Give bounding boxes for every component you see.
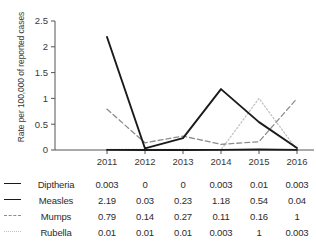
- data-cell: 0.003: [202, 224, 240, 240]
- legend-swatch-diptheria: [0, 176, 24, 192]
- data-cell: 0.16: [240, 208, 278, 224]
- data-cell: 2.19: [88, 192, 126, 208]
- line-style-icon: [4, 183, 21, 184]
- x-tick-label: 2012: [134, 156, 155, 167]
- table-row: Rubella0.010.010.010.00310.003: [0, 224, 316, 240]
- data-cell: 0: [164, 176, 202, 192]
- data-cell: 0.01: [164, 224, 202, 240]
- data-cell: 1.18: [202, 192, 240, 208]
- y-tick-label: 1: [43, 93, 48, 104]
- data-cell: 0.14: [126, 208, 164, 224]
- table-row: Mumps0.790.140.270.110.161: [0, 208, 316, 224]
- data-cell: 0.003: [278, 176, 316, 192]
- legend-swatch-rubella: [0, 224, 24, 240]
- x-tick-label: 2014: [210, 156, 231, 167]
- x-tick-label: 2015: [248, 156, 269, 167]
- series-name: Rubella: [24, 224, 88, 240]
- data-cell: 0.03: [126, 192, 164, 208]
- data-cell: 0.11: [202, 208, 240, 224]
- data-cell: 1: [240, 224, 278, 240]
- chart-plot-area: Rate per 100,000 of reported cases 00.51…: [0, 0, 316, 170]
- legend-data-table: Diptheria0.003000.0030.010.003Measles2.1…: [0, 176, 316, 240]
- data-cell: 0.003: [202, 176, 240, 192]
- series-line-diptheria: [107, 149, 297, 150]
- legend-swatch-measles: [0, 192, 24, 208]
- series-line-rubella: [107, 98, 297, 149]
- series-table: Diptheria0.003000.0030.010.003Measles2.1…: [0, 176, 316, 240]
- y-tick-label: 0.5: [35, 119, 48, 130]
- data-cell: 0.23: [164, 192, 202, 208]
- data-cell: 0.04: [278, 192, 316, 208]
- data-cell: 0.003: [278, 224, 316, 240]
- x-tick-label: 2016: [286, 156, 307, 167]
- data-cell: 0.79: [88, 208, 126, 224]
- line-chart-svg: 00.511.522.5201120122013201420152016: [0, 0, 316, 170]
- x-tick-label: 2011: [97, 156, 117, 167]
- series-name: Diptheria: [24, 176, 88, 192]
- y-tick-label: 1.5: [35, 67, 48, 78]
- legend-swatch-mumps: [0, 208, 24, 224]
- data-cell: 0.01: [126, 224, 164, 240]
- series-name: Mumps: [24, 208, 88, 224]
- data-cell: 0.01: [88, 224, 126, 240]
- y-tick-label: 2: [43, 41, 48, 52]
- data-cell: 0.01: [240, 176, 278, 192]
- data-cell: 0.003: [88, 176, 126, 192]
- x-tick-label: 2013: [172, 156, 193, 167]
- data-cell: 1: [278, 208, 316, 224]
- line-style-icon: [4, 215, 21, 216]
- line-style-icon: [4, 199, 21, 200]
- y-tick-label: 2.5: [35, 15, 48, 26]
- data-cell: 0: [126, 176, 164, 192]
- series-name: Measles: [24, 192, 88, 208]
- y-tick-label: 0: [43, 144, 48, 155]
- table-row: Measles2.190.030.231.180.540.04: [0, 192, 316, 208]
- table-row: Diptheria0.003000.0030.010.003: [0, 176, 316, 192]
- data-cell: 0.27: [164, 208, 202, 224]
- line-style-icon: [4, 231, 21, 232]
- data-cell: 0.54: [240, 192, 278, 208]
- chart-figure: Rate per 100,000 of reported cases 00.51…: [0, 0, 316, 245]
